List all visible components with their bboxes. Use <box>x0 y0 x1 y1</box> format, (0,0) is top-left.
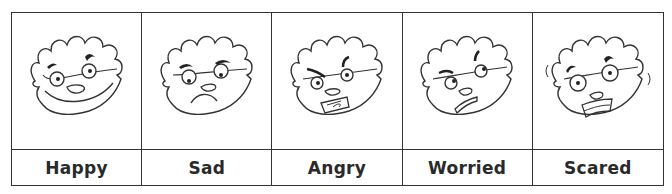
emotion-label-sad: Sad <box>142 150 272 185</box>
happy-face-cell <box>12 13 142 150</box>
scared-face-icon <box>538 21 658 141</box>
emotion-label-scared: Scared <box>533 150 663 185</box>
sad-face-cell <box>142 13 272 150</box>
happy-face-icon <box>17 21 137 141</box>
worried-face-cell <box>403 13 533 150</box>
emotion-chart-grid: Happy Sad Angry Worried Scared <box>11 12 664 186</box>
emotion-label-happy: Happy <box>12 150 142 185</box>
angry-face-icon <box>277 21 397 141</box>
emotion-label-angry: Angry <box>272 150 402 185</box>
angry-face-cell <box>272 13 402 150</box>
scared-face-cell <box>533 13 663 150</box>
sad-face-icon <box>147 21 267 141</box>
emotion-label-worried: Worried <box>403 150 533 185</box>
worried-face-icon <box>407 21 527 141</box>
